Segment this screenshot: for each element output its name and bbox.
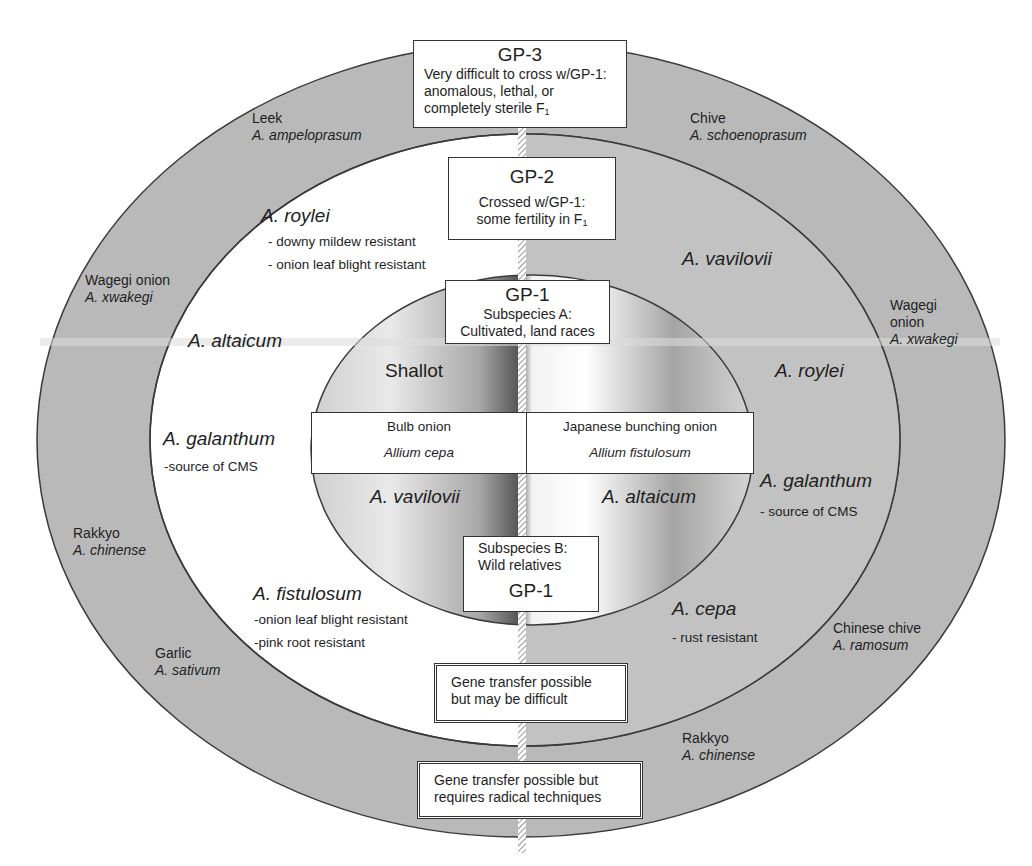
gp2-left-galanthum: A. galanthum	[163, 428, 275, 451]
gp3-right-chive: Chive A. schoenoprasum	[690, 110, 807, 144]
gp2-desc-line: Crossed w/GP-1:	[449, 194, 615, 211]
gp1b-desc-line: Subspecies B:	[478, 540, 598, 557]
inner-right-lower-label: A. altaicum	[602, 486, 696, 509]
gp3-left-wagegi: Wagegi onion A. xwakegi	[85, 272, 170, 306]
bulb-onion-common: Bulb onion	[312, 413, 526, 439]
gp2-right-galanthum: A. galanthum	[760, 470, 872, 493]
gp1a-desc-line: Cultivated, land races	[446, 323, 609, 340]
gp3-right-chinese-chive: Chinese chive A. ramosum	[833, 620, 921, 654]
gp2-desc-line: some fertility in F	[477, 211, 583, 227]
gp2-box: GP-2 Crossed w/GP-1: some fertility in F…	[448, 157, 616, 240]
gp3-left-leek: Leek A. ampeloprasum	[252, 110, 362, 144]
gp3-right-wagegi: Wagegi onion A. xwakegi	[890, 297, 958, 347]
gp2-left-roylei-trait: - downy mildew resistant	[268, 230, 416, 253]
gp2-left-roylei: A. roylei	[261, 205, 330, 228]
inner-left-lower-label: A. vavilovii	[370, 486, 460, 509]
gp3-desc-line: completely sterile F	[424, 100, 545, 116]
gp1a-heading: GP-1	[446, 284, 609, 306]
center-band: Bulb onion Allium cepa Japanese bunching…	[311, 412, 754, 474]
gp3-transfer-box: Gene transfer possible but requires radi…	[417, 761, 643, 819]
gp1b-desc-line: Wild relatives	[478, 557, 598, 574]
gp3-heading: GP-3	[414, 44, 626, 66]
gp1b-heading: GP-1	[464, 580, 598, 602]
gp1b-box: Subspecies B: Wild relatives GP-1	[463, 536, 599, 612]
bunching-onion-cell: Japanese bunching onion Allium fistulosu…	[527, 413, 753, 473]
gp3-left-rakkyo: Rakkyo A. chinense	[73, 525, 146, 559]
gp2-heading: GP-2	[449, 166, 615, 188]
gp3-box: GP-3 Very difficult to cross w/GP-1: ano…	[413, 40, 627, 128]
gp3-desc-line: Very difficult to cross w/GP-1:	[424, 66, 626, 83]
gp1a-box: GP-1 Subspecies A: Cultivated, land race…	[445, 280, 610, 344]
gp2-left-galanthum-trait: -source of CMS	[164, 455, 258, 478]
bunching-onion-scientific: Allium fistulosum	[527, 439, 753, 465]
gp3-desc-line: anomalous, lethal, or	[424, 83, 626, 100]
bulb-onion-scientific: Allium cepa	[312, 439, 526, 465]
gp2-left-roylei-trait: - onion leaf blight resistant	[268, 253, 426, 276]
gp3-left-garlic: Garlic A. sativum	[155, 645, 220, 679]
shallot-label: Shallot	[385, 360, 443, 383]
gp2-right-vavilovii: A. vavilovii	[682, 248, 772, 271]
gp2-left-fistulosum: A. fistulosum	[253, 583, 362, 606]
gp2-right-roylei: A. roylei	[775, 360, 844, 383]
gp2-right-cepa: A. cepa	[672, 598, 736, 621]
gp3-right-rakkyo: Rakkyo A. chinense	[682, 730, 755, 764]
gp2-left-fistulosum-trait: -pink root resistant	[254, 631, 365, 654]
gp2-right-galanthum-trait: - source of CMS	[760, 500, 858, 523]
bulb-onion-cell: Bulb onion Allium cepa	[312, 413, 527, 473]
gp1a-desc-line: Subspecies A:	[446, 306, 609, 323]
gene-pool-diagram: GP-3 Very difficult to cross w/GP-1: ano…	[0, 0, 1032, 866]
bunching-onion-common: Japanese bunching onion	[527, 413, 753, 439]
gp2-left-fistulosum-trait: -onion leaf blight resistant	[254, 608, 408, 631]
gp2-transfer-box: Gene transfer possible but may be diffic…	[434, 663, 628, 723]
gp2-right-cepa-trait: - rust resistant	[672, 626, 758, 649]
gp2-left-altaicum: A. altaicum	[188, 330, 282, 353]
